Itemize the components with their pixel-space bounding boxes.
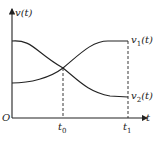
origin-label: O [2, 113, 10, 123]
t0-label: t0 [58, 122, 67, 135]
curve-v1 [12, 41, 128, 83]
t1-label: t1 [123, 122, 132, 135]
v2-label: v2(t) [131, 91, 153, 104]
x-axis-label: t [146, 113, 150, 123]
v1-label: v1(t) [131, 35, 153, 48]
y-axis-label: v(t) [15, 8, 32, 18]
curve-v2 [12, 41, 128, 97]
